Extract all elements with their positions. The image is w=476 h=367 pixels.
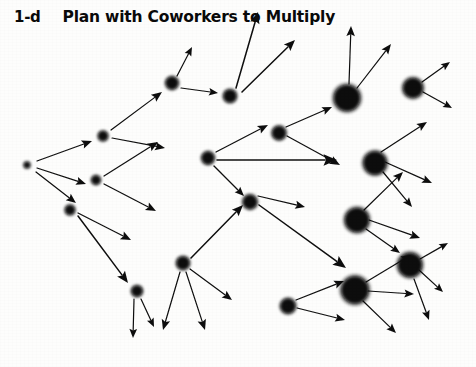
arrow-head	[332, 256, 346, 268]
flow-arrow	[111, 92, 162, 130]
arrow-head	[151, 92, 162, 102]
flow-arrow	[357, 44, 391, 88]
node-dot	[279, 297, 297, 315]
arrow-head	[416, 122, 427, 131]
flow-arrow	[363, 301, 396, 333]
flow-arrow	[296, 281, 344, 300]
flow-arrow	[37, 140, 92, 161]
node-dot	[271, 125, 288, 142]
flow-arrow	[385, 162, 432, 183]
flow-arrow	[297, 308, 345, 322]
flow-arrow	[37, 168, 86, 185]
node-dot	[64, 204, 76, 216]
node-dot	[91, 175, 102, 186]
slide-page: 1-d Plan with Coworkers to Multiply	[0, 0, 476, 367]
flow-arrow	[420, 243, 448, 259]
flow-arrow	[141, 299, 154, 327]
flow-arrow	[104, 142, 158, 176]
flow-arrow	[112, 138, 165, 150]
node-dot	[242, 194, 259, 211]
flow-arrow	[214, 166, 244, 196]
node-dot	[175, 255, 191, 271]
node-layer	[23, 75, 425, 315]
node-dot	[164, 75, 179, 90]
node-dot	[343, 206, 371, 234]
arrow-head	[442, 100, 452, 108]
flow-arrow	[162, 272, 180, 330]
flow-arrow	[177, 47, 192, 76]
flow-arrow	[186, 272, 206, 330]
flow-arrow	[368, 289, 414, 297]
flow-arrow	[364, 172, 403, 210]
arrow-head	[403, 197, 412, 207]
flow-arrow	[36, 172, 76, 203]
node-dot	[339, 274, 371, 306]
flow-arrow	[422, 62, 450, 82]
node-dot	[401, 76, 425, 100]
node-dot	[130, 284, 143, 297]
flow-arrow	[104, 184, 156, 211]
flow-arrow	[258, 196, 305, 209]
flow-arrow	[366, 229, 400, 253]
flow-arrow	[181, 88, 218, 96]
flow-arrow	[286, 107, 332, 127]
node-dot	[396, 251, 424, 279]
flow-arrow	[419, 270, 443, 292]
node-dot	[23, 161, 31, 169]
node-dot	[332, 83, 363, 114]
arrow-head	[66, 194, 76, 203]
node-dot	[200, 150, 215, 165]
arrow-head	[222, 291, 232, 300]
node-dot	[361, 149, 388, 176]
multiplication-diagram	[0, 0, 476, 367]
flow-arrow	[190, 269, 232, 300]
arrow-layer	[36, 12, 452, 338]
flow-arrow	[381, 122, 427, 152]
arrow-head	[441, 62, 450, 70]
flow-arrow	[423, 92, 452, 108]
flow-arrow	[414, 279, 429, 320]
flow-arrow	[242, 40, 295, 92]
node-dot	[222, 88, 238, 104]
flow-arrow	[191, 205, 243, 258]
flow-arrow	[236, 12, 259, 88]
flow-arrow	[259, 205, 346, 268]
flow-arrow	[217, 154, 337, 165]
arrow-head	[382, 44, 391, 55]
flow-arrow	[216, 125, 268, 152]
node-dot	[97, 130, 109, 142]
arrow-head	[390, 244, 400, 253]
flow-arrow	[346, 26, 355, 84]
arrow-head	[439, 243, 448, 251]
flow-arrow	[129, 299, 137, 338]
arrow-head	[117, 271, 128, 283]
